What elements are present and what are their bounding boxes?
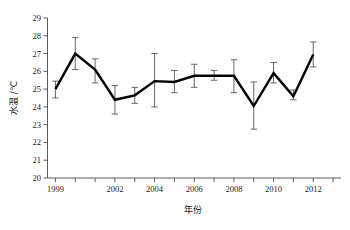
- x-tick-label: 2010: [265, 184, 282, 194]
- x-tick-label: 2002: [106, 184, 123, 194]
- x-tick-label: 2012: [305, 184, 322, 194]
- chart-background: [0, 0, 350, 230]
- y-tick-label: 22: [33, 137, 42, 147]
- y-tick-label: 28: [33, 31, 42, 41]
- x-tick-label: 1999: [47, 184, 64, 194]
- y-axis-title: 水温 /℃: [8, 81, 19, 115]
- y-tick-label: 27: [33, 49, 42, 59]
- y-tick-label: 26: [33, 66, 42, 76]
- y-tick-label: 21: [33, 155, 42, 165]
- y-tick-label: 29: [33, 13, 42, 23]
- x-tick-label: 2008: [225, 184, 242, 194]
- chart-figure: 29282726252423222120 1999200220042006200…: [0, 0, 350, 230]
- x-axis-title: 年份: [184, 204, 202, 215]
- x-tick-label: 2006: [186, 184, 203, 194]
- water-temperature-line-chart: 29282726252423222120 1999200220042006200…: [0, 0, 350, 230]
- y-tick-label: 23: [33, 120, 42, 130]
- y-tick-label: 20: [33, 173, 42, 183]
- y-tick-label: 25: [33, 84, 42, 94]
- y-tick-label: 24: [33, 102, 42, 112]
- x-tick-label: 2004: [146, 184, 164, 194]
